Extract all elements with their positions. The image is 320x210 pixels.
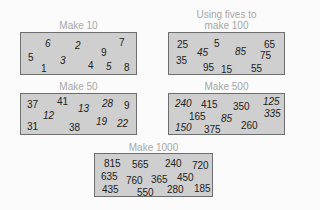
number-item: 95 (203, 62, 214, 73)
panel-title: Make 50 (20, 81, 137, 92)
number-item: 65 (264, 39, 275, 50)
number-item: 13 (78, 103, 89, 114)
panel-title: Using fives tomake 100 (168, 9, 285, 31)
number-item: 9 (101, 47, 107, 58)
number-item: 5 (28, 52, 34, 63)
number-item: 25 (177, 39, 188, 50)
number-item: 350 (233, 101, 250, 112)
number-item: 3 (60, 55, 66, 66)
number-item: 41 (57, 96, 68, 107)
number-item: 760 (126, 175, 143, 186)
number-item: 6 (45, 38, 51, 49)
number-item: 375 (204, 124, 221, 135)
number-item: 5 (106, 61, 112, 72)
number-item: 815 (104, 158, 121, 169)
number-item: 450 (177, 172, 194, 183)
number-item: 240 (165, 158, 182, 169)
panel-title: Make 10 (20, 20, 137, 31)
number-item: 2 (75, 40, 81, 51)
number-item: 335 (264, 108, 281, 119)
number-box: 6275931458 (20, 32, 137, 75)
number-item: 165 (189, 111, 206, 122)
panel-title: Make 500 (168, 81, 285, 92)
number-item: 435 (102, 184, 119, 195)
number-item: 550 (137, 187, 154, 198)
number-item: 85 (235, 46, 246, 57)
number-item: 85 (221, 113, 232, 124)
number-box: 3741132891219223138 (20, 93, 137, 135)
number-item: 55 (251, 63, 262, 74)
number-item: 415 (201, 99, 218, 110)
number-item: 22 (117, 118, 128, 129)
number-item: 125 (263, 96, 280, 107)
number-item: 260 (241, 120, 258, 131)
number-item: 1 (41, 63, 47, 74)
number-box: 2556545857535951555 (168, 32, 285, 75)
number-item: 28 (102, 98, 113, 109)
number-item: 38 (69, 122, 80, 133)
panel-title-text: Using fives tomake 100 (196, 9, 256, 31)
number-item: 15 (221, 64, 232, 75)
number-item: 7 (119, 37, 125, 48)
number-item: 75 (260, 50, 271, 61)
number-item: 19 (96, 116, 107, 127)
number-item: 185 (194, 183, 211, 194)
number-item: 280 (167, 184, 184, 195)
number-item: 45 (197, 47, 208, 58)
number-item: 12 (43, 110, 54, 121)
number-item: 35 (176, 55, 187, 66)
number-item: 240 (175, 98, 192, 109)
number-item: 9 (124, 100, 130, 111)
number-item: 720 (192, 160, 209, 171)
number-item: 31 (27, 121, 38, 132)
number-item: 365 (151, 174, 168, 185)
number-item: 37 (27, 99, 38, 110)
number-item: 635 (101, 171, 118, 182)
number-box: 24041535012516585335150375260 (168, 93, 285, 135)
panel-title: Make 1000 (94, 142, 213, 153)
number-item: 565 (132, 159, 149, 170)
number-item: 8 (124, 62, 130, 73)
number-item: 150 (175, 122, 192, 133)
number-box: 815565240720635760365450435550280185 (94, 153, 213, 197)
number-item: 4 (88, 60, 94, 71)
number-item: 5 (214, 38, 220, 49)
